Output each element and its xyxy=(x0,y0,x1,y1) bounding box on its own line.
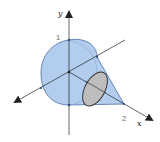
x-axis-label: x xyxy=(137,119,142,128)
origin-point xyxy=(68,71,71,74)
x-tick-label: 2 xyxy=(122,114,126,123)
base-right-point xyxy=(96,56,98,58)
y-tick-point xyxy=(68,39,70,41)
y-axis-label: y xyxy=(57,9,63,18)
base-left-point xyxy=(40,87,42,89)
solid-of-revolution-diagram: y 1 2 x xyxy=(0,0,160,142)
apex-point xyxy=(123,103,125,105)
base-bottom-point xyxy=(68,104,70,106)
y-tick-label: 1 xyxy=(56,33,60,42)
